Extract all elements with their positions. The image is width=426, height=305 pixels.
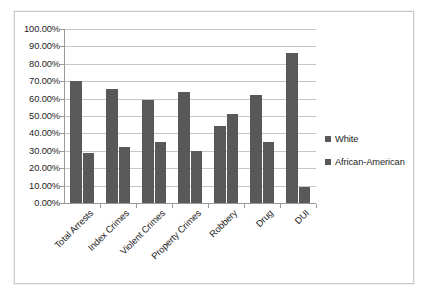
gridline xyxy=(64,99,316,100)
y-axis-tick-label: 90.00% xyxy=(29,41,60,51)
gridline xyxy=(64,46,316,47)
bar xyxy=(263,142,275,203)
y-axis-labels: 100.00%90.00%80.00%70.00%60.00%50.00%40.… xyxy=(15,29,62,204)
legend-item[interactable]: White xyxy=(325,134,411,144)
y-axis-tick-label: 30.00% xyxy=(29,146,60,156)
y-axis-tick-label: 80.00% xyxy=(29,59,60,69)
gridline xyxy=(64,64,316,65)
bar xyxy=(286,53,298,204)
y-axis-tick-label: 50.00% xyxy=(29,111,60,121)
legend-label: African-American xyxy=(335,157,405,167)
x-axis-category-text: Robbery xyxy=(208,208,239,239)
legend-swatch-icon xyxy=(325,159,331,165)
y-axis-tick-label: 10.00% xyxy=(29,181,60,191)
y-axis-line xyxy=(64,29,65,204)
legend-label: White xyxy=(335,134,358,144)
y-axis-tick-label: 40.00% xyxy=(29,128,60,138)
bar xyxy=(83,153,95,203)
gridline xyxy=(64,133,316,134)
y-axis-tick-label: 0.00% xyxy=(34,198,60,208)
bar xyxy=(70,81,82,203)
chart-legend: WhiteAfrican-American xyxy=(325,134,411,180)
y-axis-tick-label: 70.00% xyxy=(29,76,60,86)
y-axis-tick-label: 60.00% xyxy=(29,94,60,104)
x-axis-category-text: Drug xyxy=(254,208,275,229)
gridline xyxy=(64,29,316,30)
gridline xyxy=(64,116,316,117)
legend-swatch-icon xyxy=(325,136,331,142)
bar xyxy=(299,187,311,203)
legend-item[interactable]: African-American xyxy=(325,157,411,167)
x-axis-labels: Total ArrestsIndex CrimesViolent CrimesP… xyxy=(64,208,326,268)
gridline xyxy=(64,81,316,82)
y-axis-tick-label: 20.00% xyxy=(29,163,60,173)
x-axis-category-text: DUI xyxy=(293,208,311,226)
chart-frame: 100.00%90.00%80.00%70.00%60.00%50.00%40.… xyxy=(14,11,414,284)
y-axis-tick-label: 100.00% xyxy=(24,24,60,34)
